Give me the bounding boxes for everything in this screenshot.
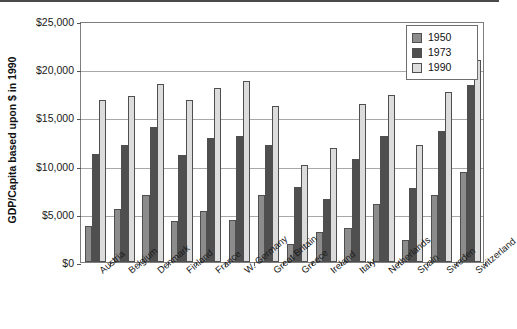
bar[interactable]	[438, 131, 445, 262]
legend-item[interactable]: 1950	[412, 30, 472, 45]
bar[interactable]	[150, 127, 157, 262]
bar[interactable]	[157, 84, 164, 262]
legend-swatch-1990	[412, 63, 422, 73]
legend-item[interactable]: 1973	[412, 45, 472, 60]
bar[interactable]	[388, 95, 395, 262]
y-tick-label: $20,000	[36, 64, 74, 76]
bar-group	[370, 23, 399, 262]
bar[interactable]	[467, 85, 474, 262]
y-axis-title-text: GDP/Capita based upon $ in 1990	[6, 57, 18, 224]
bar-group	[81, 23, 110, 262]
bar[interactable]	[207, 138, 214, 262]
bar[interactable]	[380, 136, 387, 262]
legend: 1950 1973 1990	[406, 25, 478, 80]
bar[interactable]	[359, 104, 366, 262]
y-tick-label: $15,000	[36, 112, 74, 124]
bar-group	[312, 23, 341, 262]
bar[interactable]	[85, 226, 92, 262]
bar[interactable]	[474, 60, 481, 262]
bar[interactable]	[121, 145, 128, 262]
legend-label-1990: 1990	[428, 62, 451, 73]
bar-group	[168, 23, 197, 262]
y-tick-label: $5,000	[42, 209, 74, 221]
bar-group	[254, 23, 283, 262]
bar[interactable]	[236, 136, 243, 262]
bar-group	[110, 23, 139, 262]
bar[interactable]	[445, 92, 452, 262]
y-axis-title: GDP/Capita based upon $ in 1990	[0, 0, 24, 280]
legend-label-1950: 1950	[428, 32, 451, 43]
bar[interactable]	[243, 81, 250, 262]
bar[interactable]	[186, 100, 193, 262]
bar[interactable]	[214, 88, 221, 262]
y-tick-label: $25,000	[36, 16, 74, 28]
bar-group	[283, 23, 312, 262]
legend-item[interactable]: 1990	[412, 60, 472, 75]
bar[interactable]	[330, 148, 337, 262]
legend-swatch-1950	[412, 33, 422, 43]
x-axis-category-labels: AustriaBelgiumDenmarkFinlandFranceW. Ger…	[80, 263, 484, 329]
legend-label-1973: 1973	[428, 47, 451, 58]
y-tick-label: $10,000	[36, 161, 74, 173]
bar[interactable]	[99, 100, 106, 262]
bar[interactable]	[352, 159, 359, 262]
bar[interactable]	[373, 204, 380, 262]
bar-group	[196, 23, 225, 262]
bar-group	[341, 23, 370, 262]
legend-swatch-1973	[412, 48, 422, 58]
bar[interactable]	[92, 154, 99, 262]
bar-group	[139, 23, 168, 262]
bar-group	[225, 23, 254, 262]
y-tick-label: $0	[62, 257, 74, 269]
y-axis-tick-labels: $0$5,000$10,000$15,000$20,000$25,000	[24, 0, 80, 329]
bar[interactable]	[128, 96, 135, 262]
